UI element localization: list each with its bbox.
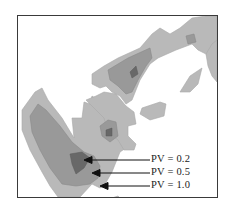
contour-map <box>0 0 230 207</box>
label-pv-0-2: PV = 0.2 <box>151 153 190 164</box>
label-pv-0-5: PV = 0.5 <box>151 166 190 177</box>
pv-contour-figure: PV = 0.2 PV = 0.5 PV = 1.0 <box>0 0 230 207</box>
label-pv-1-0: PV = 1.0 <box>151 179 190 190</box>
